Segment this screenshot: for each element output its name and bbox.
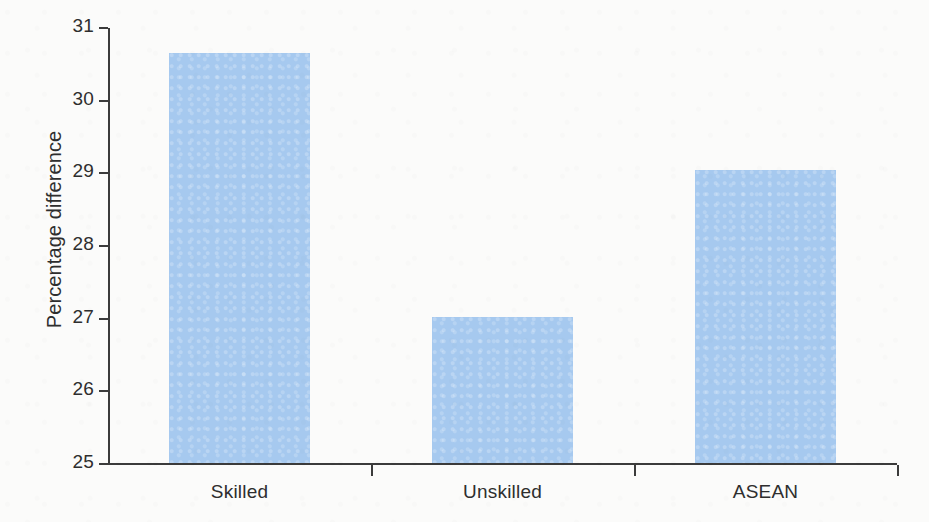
- bar-chart-figure: Percentage difference 25262728293031 Ski…: [0, 0, 929, 522]
- x-axis-tick-mark: [897, 465, 899, 476]
- y-axis-tick-label: 26: [34, 378, 94, 400]
- y-axis-tick-label: 29: [34, 160, 94, 182]
- y-axis-tick-mark: [99, 172, 108, 174]
- y-axis-tick-label: 28: [34, 233, 94, 255]
- y-axis-tick-label: 30: [34, 88, 94, 110]
- bar: [695, 170, 836, 464]
- bar: [169, 53, 310, 464]
- bar: [432, 317, 573, 464]
- y-axis-tick-mark: [99, 318, 108, 320]
- y-axis-tick-mark: [99, 100, 108, 102]
- y-axis-tick-mark: [99, 463, 108, 465]
- x-axis-category-label: Unskilled: [383, 481, 623, 503]
- x-axis-tick-mark: [371, 465, 373, 476]
- x-axis-tick-mark: [634, 465, 636, 476]
- x-axis-category-label: Skilled: [120, 481, 360, 503]
- y-axis-tick-label: 25: [34, 451, 94, 473]
- y-axis-tick-label: 31: [34, 15, 94, 37]
- y-axis-tick-mark: [99, 245, 108, 247]
- x-axis-category-label: ASEAN: [646, 481, 886, 503]
- y-axis-tick-mark: [99, 27, 108, 29]
- y-axis-line: [108, 28, 110, 465]
- y-axis-title: Percentage difference: [43, 80, 66, 380]
- x-axis-line: [108, 463, 897, 465]
- y-axis-tick-label: 27: [34, 306, 94, 328]
- y-axis-tick-mark: [99, 390, 108, 392]
